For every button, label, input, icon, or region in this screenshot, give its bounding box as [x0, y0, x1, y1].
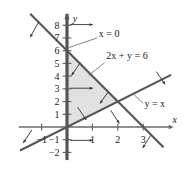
y-tick-label-3: 3 — [55, 83, 60, 94]
x-axis-label: x — [171, 114, 177, 125]
y-tick-label-2: 2 — [55, 96, 60, 107]
y-tick-label-4: 4 — [55, 71, 60, 82]
two-x-plus-y-label: 2x + y = 6 — [106, 50, 147, 61]
y-tick-label-5: 5 — [55, 58, 60, 69]
x-tick-label-3: 3 — [141, 134, 146, 145]
coordinate-plane-svg: 87654321−1−2−1123 x = 02x + y = 6y = x y… — [0, 0, 191, 175]
y-tick-label-neg2: −2 — [49, 147, 60, 158]
x-tick-label-neg1: −1 — [36, 134, 47, 145]
y-axis-label: y — [72, 13, 78, 24]
x-equals-zero-label-leader — [69, 38, 97, 48]
y-tick-label-1: 1 — [55, 109, 60, 120]
y-tick-label-7: 7 — [55, 32, 60, 43]
x-tick-label-2: 2 — [115, 134, 120, 145]
feasible-region — [67, 51, 118, 127]
x-axis-arrowhead — [169, 125, 174, 130]
y-tick-label-8: 8 — [55, 20, 60, 31]
x-tick-label-1: 1 — [90, 134, 95, 145]
y-tick-label-6: 6 — [55, 45, 60, 56]
x-equals-zero-label: x = 0 — [99, 28, 120, 39]
y-tick-label-neg1: −1 — [49, 134, 60, 145]
graph-figure: 87654321−1−2−1123 x = 02x + y = 6y = x y… — [0, 0, 191, 175]
y-equals-x-label: y = x — [144, 98, 165, 109]
region-layer — [67, 51, 118, 127]
two-x-plus-y-label-leader — [89, 63, 105, 76]
arrow-x0-top-head — [90, 23, 93, 26]
y-equals-x-label-leader — [133, 94, 143, 104]
